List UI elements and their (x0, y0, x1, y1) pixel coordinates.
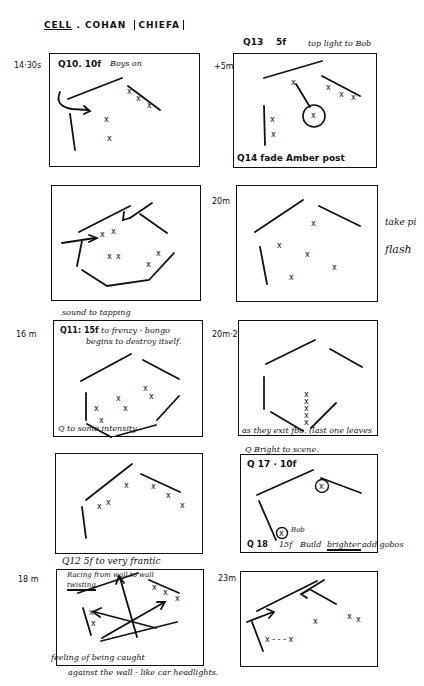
time-label: 20m (212, 198, 230, 206)
storyboard-panel-10: x xx x - - - x (240, 571, 378, 667)
cue-label: Q13 (243, 38, 263, 47)
svg-text:x: x (111, 227, 116, 236)
svg-text:x: x (163, 588, 168, 597)
svg-text:x: x (107, 134, 112, 143)
svg-text:x: x (91, 619, 96, 628)
svg-text:x: x (136, 94, 141, 103)
svg-text:x: x (279, 529, 284, 538)
time-label: 14·30s (14, 62, 41, 70)
svg-text:x: x (326, 83, 331, 92)
svg-text:x: x (116, 252, 121, 261)
svg-text:x: x (94, 404, 99, 413)
bob-label: Bob (291, 527, 305, 534)
below-note: Q Bright to scene. (245, 446, 319, 454)
svg-text:x - - - x: x - - - x (265, 635, 294, 644)
svg-text:x: x (149, 392, 154, 401)
svg-text:x: x (156, 249, 161, 258)
svg-text:x: x (89, 608, 94, 617)
svg-text:x: x (124, 481, 129, 490)
svg-text:x: x (143, 384, 148, 393)
bottom-fade: 15f (279, 541, 292, 549)
svg-text:x: x (100, 230, 105, 239)
svg-text:x: x (166, 491, 171, 500)
bottom-note: feeling of being caught (51, 654, 145, 662)
side-note: flash (385, 244, 412, 255)
cue-note: top light to Bob (308, 40, 371, 48)
svg-text:x: x (271, 130, 276, 139)
time-label: 18 m (18, 576, 39, 584)
svg-text:x: x (116, 394, 121, 403)
storyboard-panel-5: Q11: 15f . to frenzy - bongo begins to d… (53, 320, 203, 437)
svg-text:x: x (152, 583, 157, 592)
svg-text:x: x (175, 594, 180, 603)
time-label: 23m (218, 575, 236, 583)
storyboard-panel-1: Q10. 10f Boys on xxx x xx (49, 53, 200, 167)
svg-text:x: x (289, 273, 294, 282)
page-title: CELL . COHAN CHIEFA (44, 20, 184, 30)
bottom-cue: Q14 fade Amber post (237, 154, 345, 163)
stage-diagram: x xx x - - - x (241, 572, 379, 668)
bottom-note-underlined: brighter (327, 541, 361, 551)
storyboard-panel-6: xxx xx as they exit fbo. (last one leave… (238, 320, 378, 436)
svg-text:x: x (319, 482, 324, 491)
stage-diagram: xx xx xx (52, 186, 202, 302)
storyboard-panel-9: Racing from wall to wall twisting xx xxx… (56, 569, 204, 666)
svg-text:x: x (339, 90, 344, 99)
svg-text:x: x (146, 260, 151, 269)
stage-diagram: x x xxx xx (234, 54, 378, 169)
time-label: +5m (214, 63, 234, 71)
stage-diagram: xx xx xx (56, 454, 204, 555)
storyboard-panel-4: xx xx x (236, 185, 378, 302)
above-note: Q12 5f to very frantic (62, 557, 161, 566)
svg-text:x: x (180, 501, 185, 510)
bottom-cue: Q to some intensity (58, 425, 137, 433)
svg-text:x: x (123, 404, 128, 413)
title-cell: CELL (44, 20, 72, 30)
svg-text:x: x (351, 93, 356, 102)
svg-text:x: x (151, 482, 156, 491)
svg-text:x: x (106, 498, 111, 507)
title-chiefa: CHIEFA (134, 20, 184, 30)
time-label: 16 m (16, 331, 37, 339)
stage-diagram: xxx xx (239, 321, 379, 437)
title-cohan: COHAN (85, 20, 126, 30)
svg-text:x: x (127, 87, 132, 96)
svg-text:x: x (107, 252, 112, 261)
fade-label: 5f (276, 38, 286, 47)
svg-text:x: x (305, 250, 310, 259)
svg-text:x: x (332, 263, 337, 272)
stage-diagram: xx xx x (237, 186, 379, 303)
bottom-note: Build (300, 541, 321, 549)
svg-text:x: x (311, 111, 316, 120)
storyboard-panel-7: xx xx xx (55, 453, 203, 554)
svg-text:x: x (147, 101, 152, 110)
svg-text:x: x (356, 615, 361, 624)
svg-text:x: x (291, 78, 296, 87)
svg-text:x: x (97, 502, 102, 511)
svg-text:x: x (270, 115, 275, 124)
svg-text:x: x (311, 219, 316, 228)
bottom-note: add gobos (362, 541, 404, 549)
stage-diagram: xxx x xx (50, 54, 201, 168)
bottom-note: as they exit fbo. (last one leaves (242, 427, 372, 435)
svg-text:x: x (104, 115, 109, 124)
svg-text:x: x (313, 617, 318, 626)
storyboard-panel-2: x x xxx xx Q14 fade Amber post (233, 53, 377, 168)
above-note: sound to tapping (62, 309, 131, 317)
storyboard-panel-3: xx xx xx (51, 185, 201, 301)
side-note: take pi (385, 218, 416, 227)
bottom-cue: Q 18 (247, 541, 268, 549)
stage-diagram: xxx xxx (54, 321, 204, 438)
bottom-note: against the wall - like car headlights. (68, 669, 218, 677)
svg-text:x: x (277, 241, 282, 250)
svg-text:x: x (347, 612, 352, 621)
title-sep: . (76, 20, 80, 30)
storyboard-panel-8: Q 17 · 10f x x Bob Q 18 (240, 454, 378, 553)
